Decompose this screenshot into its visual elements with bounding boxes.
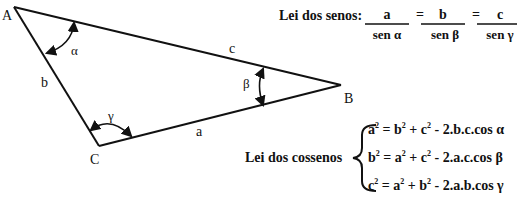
side-c-label: c [229, 41, 235, 56]
sines-equals-1: = [416, 7, 424, 22]
sines-numerator-b: b [439, 7, 447, 22]
triangle [14, 7, 341, 146]
vertex-b-label: B [344, 91, 353, 106]
law-of-cosines: Lei dos cossenos a2 = b2 + c2 - 2.b.c.co… [245, 121, 504, 193]
sines-denominator-b: sen β [431, 27, 459, 42]
gamma-angle-arc-icon [91, 124, 131, 136]
sines-equals-2: = [472, 7, 480, 22]
law-of-sines-title: Lei dos senos: [279, 8, 362, 23]
sines-numerator-a: a [384, 7, 391, 22]
cosines-equation-c: c2 = a2 + b2 - 2.a.b.cos γ [368, 177, 504, 193]
beta-angle-arc-icon [260, 69, 264, 105]
alpha-angle-arc-icon [47, 23, 74, 53]
side-a-label: a [196, 124, 203, 139]
law-of-sines: Lei dos senos: a sen α = b sen β = c sen… [279, 7, 517, 42]
law-of-cosines-title: Lei dos cossenos [245, 150, 343, 165]
alpha-label: α [71, 43, 78, 58]
sines-numerator-c: c [497, 7, 503, 22]
cosines-equation-a: a2 = b2 + c2 - 2.b.c.cos α [368, 121, 504, 137]
sines-denominator-c: sen γ [486, 27, 513, 42]
sines-denominator-a: sen α [373, 27, 402, 42]
cosines-equation-b: b2 = a2 + c2 - 2.a.c.cos β [368, 149, 503, 165]
gamma-label: γ [107, 108, 114, 123]
trigonometry-diagram: A B C c b a α β γ Lei dos senos: a sen α… [0, 0, 517, 197]
beta-label: β [243, 76, 250, 91]
side-b-label: b [41, 75, 48, 90]
side-b-line [14, 7, 99, 146]
vertex-c-label: C [90, 152, 99, 167]
side-a-line [99, 85, 341, 146]
vertex-a-label: A [2, 8, 13, 23]
